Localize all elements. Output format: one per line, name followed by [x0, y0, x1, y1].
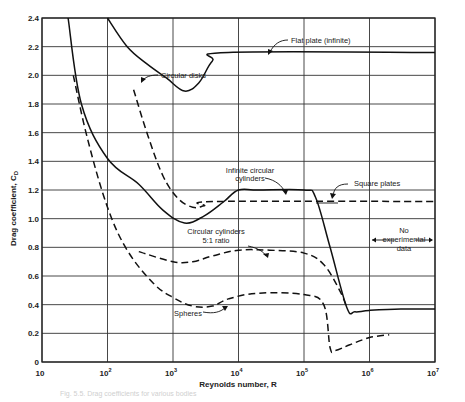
- y-tick-label: 0.8: [28, 243, 40, 252]
- label-square-plates: Square plates: [354, 179, 401, 188]
- label-cyl51-1: Circular cylinders: [187, 227, 245, 236]
- y-tick-label: 1.0: [28, 215, 40, 224]
- y-tick-label: 1.8: [28, 100, 40, 109]
- curve-spheres: [73, 75, 389, 352]
- label-noexp-1: No: [399, 226, 409, 235]
- flat-plate-leader: [270, 40, 288, 52]
- x-tick-label: 10: [36, 369, 45, 378]
- y-tick-label: 1.6: [28, 129, 40, 138]
- y-tick-label: 2.4: [28, 14, 40, 23]
- leader-arrows: [143, 40, 432, 313]
- x-axis-ticks: 10102103104105106107: [36, 367, 439, 378]
- y-tick-label: 0.4: [28, 301, 40, 310]
- x-axis-title: Reynolds number, R: [199, 380, 277, 389]
- y-tick-label: 0.6: [28, 272, 40, 281]
- x-tick-label: 106: [362, 367, 374, 378]
- label-circular-disks: Circular disks: [161, 71, 206, 80]
- y-tick-label: 1.4: [28, 157, 40, 166]
- y-tick-label: 1.2: [28, 186, 40, 195]
- label-noexp-2: experimental: [383, 235, 426, 244]
- x-tick-label: 107: [427, 367, 439, 378]
- y-axis-ticks: 00.20.40.60.81.01.21.41.61.82.02.22.4: [28, 14, 40, 367]
- label-infinite-cyl-2: cylinders: [235, 174, 265, 183]
- y-tick-label: 2.0: [28, 71, 40, 80]
- figure-caption: Fig. 5.5. Drag coefficients for various …: [60, 390, 196, 397]
- y-tick-label: 2.2: [28, 43, 40, 52]
- label-cyl51-2: 5:1 ratio: [202, 236, 229, 245]
- label-spheres: Spheres: [174, 309, 202, 318]
- label-noexp-3: data: [397, 244, 412, 253]
- drag-coefficient-chart: 00.20.40.60.81.01.21.41.61.82.02.22.4 10…: [0, 0, 465, 402]
- label-flat-plate: Flat plate (infinite): [291, 36, 351, 45]
- spheres-leader: [203, 308, 225, 313]
- x-tick-label: 102: [100, 367, 112, 378]
- curve-circular-cylinders-5-1-ratio: [139, 250, 347, 308]
- y-axis-title: Drag coefficient, CD: [9, 170, 19, 246]
- y-tick-label: 0: [35, 358, 40, 367]
- x-tick-label: 103: [165, 367, 177, 378]
- x-tick-label: 104: [231, 367, 244, 378]
- curve-flat-plate-infinite: [108, 18, 436, 91]
- y-tick-label: 0.2: [28, 329, 40, 338]
- x-tick-label: 105: [296, 367, 308, 378]
